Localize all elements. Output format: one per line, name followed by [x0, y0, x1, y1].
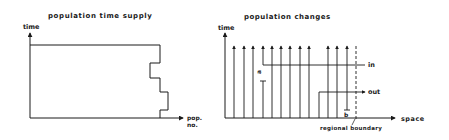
out-label: out [368, 88, 380, 96]
life-lines [234, 46, 337, 118]
boundary-label: regional boundary [320, 125, 382, 132]
line-b [344, 46, 350, 110]
left-title: population time supply [48, 12, 152, 20]
supply-outline [30, 45, 168, 118]
left-x-axis-label-no: no. [187, 121, 198, 128]
right-y-axis-label: time [218, 24, 235, 32]
out-migration-line [319, 92, 365, 118]
right-x-axis-label: space [401, 115, 425, 123]
population-changes-diagram: population changes time space a [218, 13, 425, 132]
left-y-axis-label: time [23, 23, 40, 31]
marker-b: b [344, 111, 349, 118]
population-time-supply-diagram: population time supply time pop. no. [23, 12, 202, 128]
right-title: population changes [244, 13, 331, 21]
in-label: in [368, 61, 375, 69]
diagram-canvas: population time supply time pop. no. pop… [0, 0, 449, 140]
marker-a: a [255, 70, 262, 74]
line-a [260, 46, 266, 118]
